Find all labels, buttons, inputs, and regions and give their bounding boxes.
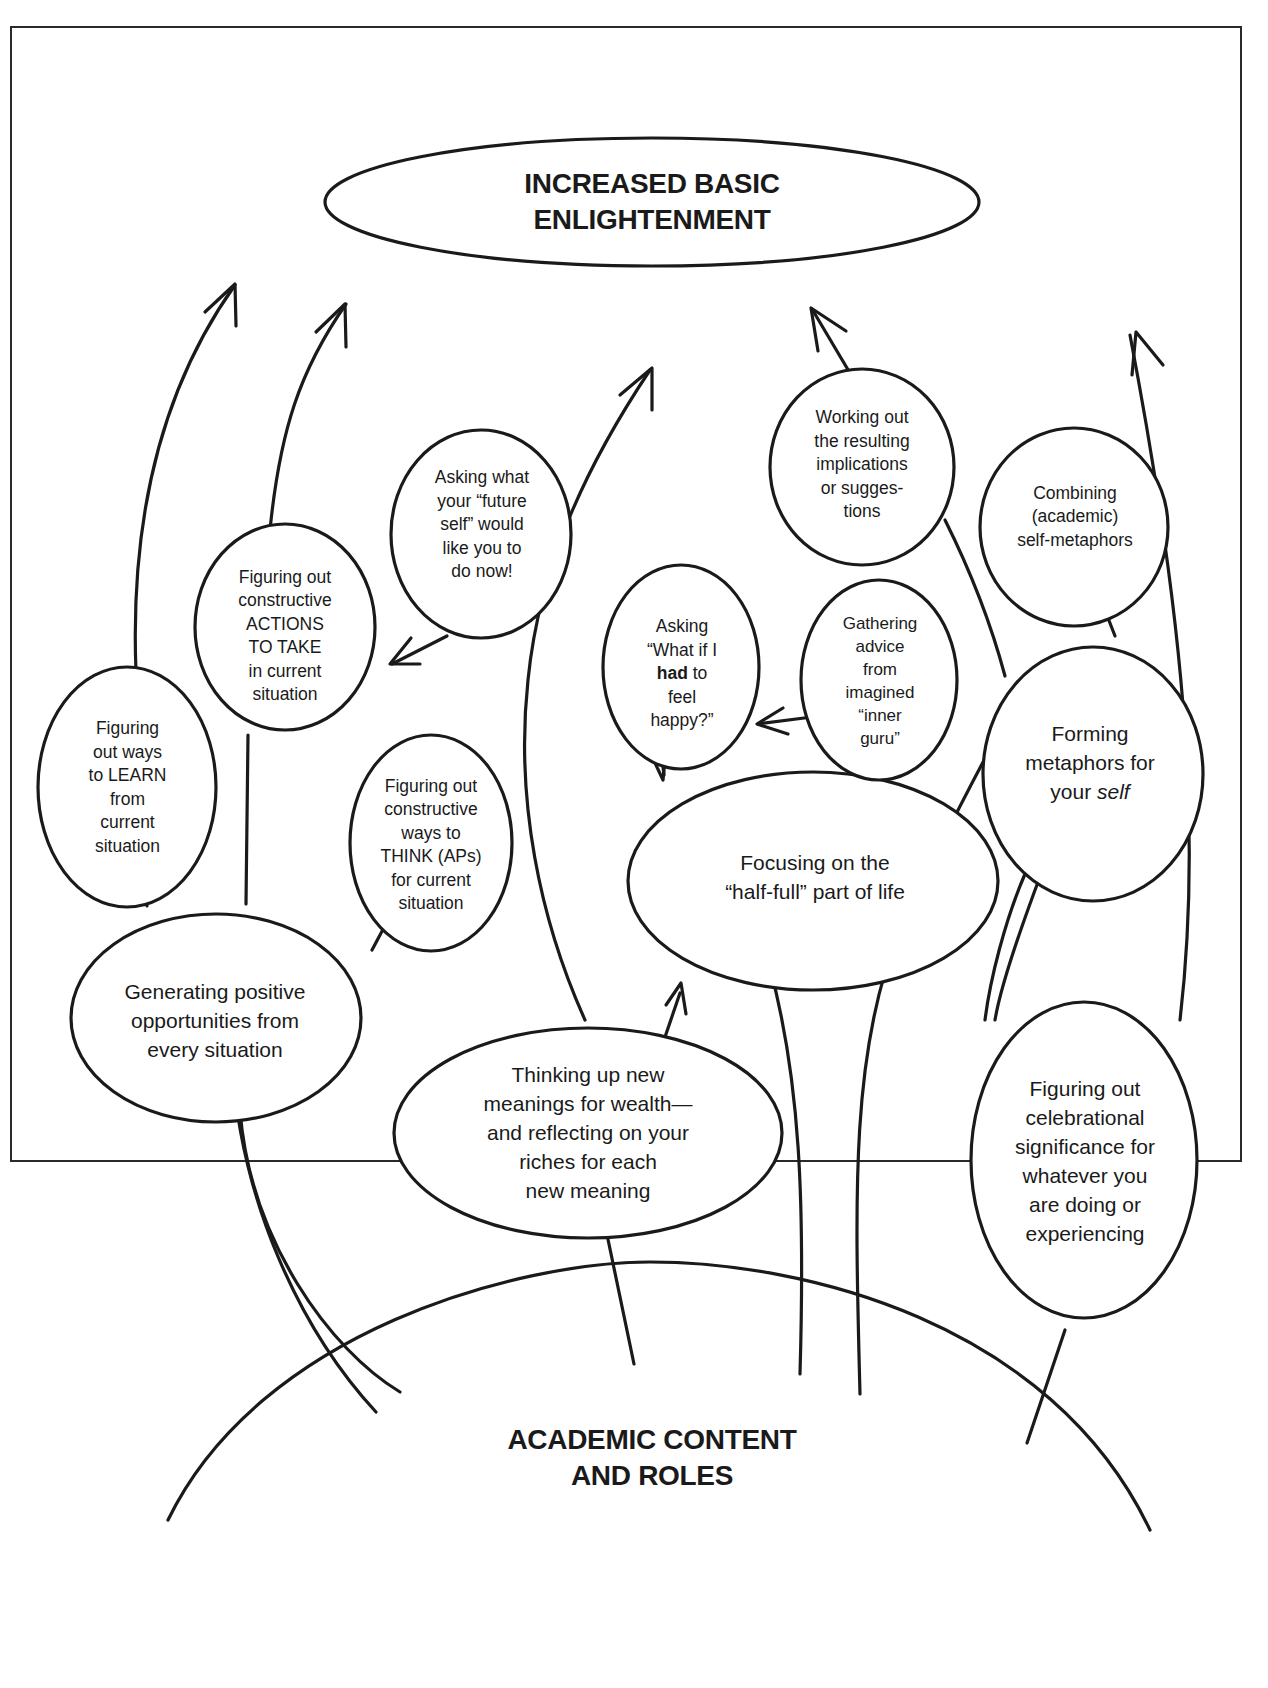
node-line: whatever you: [1023, 1161, 1148, 1190]
branch-metaphors-down-2: [995, 874, 1041, 1020]
node-line: “What if I: [647, 639, 717, 663]
node-think: Figuring out constructive ways to THINK …: [350, 770, 512, 920]
node-line: are doing or: [1029, 1190, 1141, 1219]
top-goal-line: ENLIGHTENMENT: [533, 202, 770, 238]
node-line-pre: your: [1050, 780, 1097, 803]
node-line: your self: [1050, 777, 1129, 806]
node-line: situation: [398, 892, 463, 916]
node-line: Gathering: [843, 612, 918, 635]
node-line: metaphors for: [1025, 748, 1155, 777]
node-line: your “future: [437, 490, 526, 514]
node-line: Thinking up new: [512, 1060, 665, 1089]
node-line: from: [863, 658, 897, 681]
branch-halffull-base: [770, 968, 802, 1374]
node-actions: Figuring out constructive ACTIONS TO TAK…: [195, 552, 375, 720]
node-inner-guru: Gathering advice from imagined “inner gu…: [805, 608, 955, 754]
node-line: “inner: [858, 704, 901, 727]
node-had-to: Asking “What if I had to feel happy?”: [608, 612, 756, 736]
node-line: self” would: [440, 513, 524, 537]
node-line: Combining: [1033, 482, 1117, 506]
node-line: THINK (APs): [380, 845, 481, 869]
node-line-rest: to: [688, 663, 707, 683]
node-combining: Combining (academic) self-metaphors: [980, 478, 1170, 556]
node-line: meanings for wealth—: [484, 1089, 693, 1118]
branch-combining-metaphors: [1108, 618, 1115, 636]
node-line: advice: [855, 635, 904, 658]
node-line: self-metaphors: [1017, 529, 1133, 553]
node-line: happy?”: [650, 709, 713, 733]
node-line: opportunities from: [131, 1006, 299, 1035]
top-goal-label: INCREASED BASIC ENLIGHTENMENT: [372, 150, 932, 254]
node-line: Working out: [815, 406, 908, 430]
node-future-self: Asking what your “future self” would lik…: [392, 462, 572, 588]
node-line: Figuring out: [385, 775, 477, 799]
node-line: Asking what: [435, 466, 529, 490]
branch-2-upper: [270, 304, 346, 530]
node-line: in current: [249, 660, 322, 684]
node-line: ACTIONS: [246, 613, 324, 637]
node-line: Generating positive: [125, 977, 306, 1006]
node-generating: Generating positive opportunities from e…: [80, 970, 350, 1070]
arrow-wealth-halffull: [664, 993, 680, 1040]
branch-1-lower: [240, 1110, 400, 1392]
node-metaphors: Forming metaphors for your self: [990, 714, 1190, 810]
node-line: had to: [657, 662, 708, 686]
node-line: for current: [391, 869, 471, 893]
node-line: (academic): [1032, 505, 1119, 529]
node-line: situation: [95, 835, 160, 859]
branch-2-b: [246, 735, 248, 904]
node-line: Asking: [656, 615, 709, 639]
node-line: imagined: [846, 681, 915, 704]
node-line: constructive: [238, 589, 331, 613]
node-line: every situation: [147, 1035, 282, 1064]
node-line: implications: [816, 453, 907, 477]
node-line: Focusing on the: [740, 848, 889, 877]
base-line: AND ROLES: [571, 1458, 733, 1494]
node-line: current: [100, 811, 154, 835]
node-line: the resulting: [814, 430, 909, 454]
node-line: Figuring out: [1030, 1074, 1141, 1103]
node-learn: Figuring out ways to LEARN from current …: [40, 700, 215, 875]
node-line: significance for: [1015, 1132, 1155, 1161]
node-line: situation: [252, 683, 317, 707]
node-line: Figuring: [96, 717, 159, 741]
node-line: ways to: [401, 822, 460, 846]
node-line: and reflecting on your: [487, 1118, 689, 1147]
base-label: ACADEMIC CONTENT AND ROLES: [372, 1408, 932, 1508]
node-line: from: [110, 788, 145, 812]
node-line: tions: [844, 500, 881, 524]
node-line: feel: [668, 686, 696, 710]
base-line: ACADEMIC CONTENT: [507, 1422, 796, 1458]
node-line: guru”: [860, 727, 900, 750]
node-line: like you to: [443, 537, 522, 561]
node-line: Forming: [1051, 719, 1128, 748]
node-line: to LEARN: [89, 764, 167, 788]
node-line: experiencing: [1025, 1219, 1144, 1248]
emphasis-self: self: [1097, 780, 1130, 803]
node-wealth: Thinking up new meanings for wealth— and…: [420, 1056, 756, 1208]
node-line: riches for each: [519, 1147, 657, 1176]
node-line: new meaning: [526, 1176, 651, 1205]
node-line: “half-full” part of life: [725, 877, 905, 906]
node-half-full: Focusing on the “half-full” part of life: [650, 845, 980, 909]
branch-wealth-base: [605, 1225, 634, 1364]
node-line: out ways: [93, 741, 162, 765]
node-line: constructive: [384, 798, 477, 822]
node-line: do now!: [451, 560, 512, 584]
top-goal-line: INCREASED BASIC: [524, 166, 779, 202]
node-line: TO TAKE: [249, 636, 322, 660]
emphasis-had: had: [657, 663, 688, 683]
node-line: celebrational: [1025, 1103, 1144, 1132]
node-celebrational: Figuring out celebrational significance …: [975, 1068, 1195, 1254]
node-line: Figuring out: [239, 566, 331, 590]
node-line: or sugges-: [821, 477, 904, 501]
node-implications: Working out the resulting implications o…: [772, 403, 952, 527]
